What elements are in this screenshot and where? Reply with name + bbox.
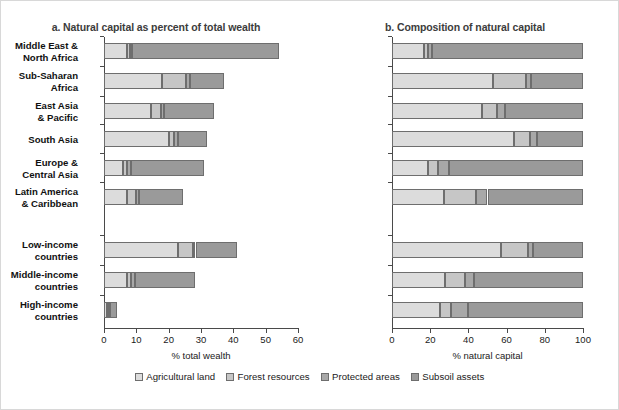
legend-swatch-agricultural-land	[135, 373, 143, 381]
legend-label: Forest resources	[238, 371, 310, 382]
legend-swatch-subsoil-assets	[411, 373, 419, 381]
chart-a-segment-subsoil-assets	[131, 160, 205, 176]
chart-a-segment-forest-resources	[169, 131, 174, 147]
chart-b-x-tick	[392, 329, 393, 333]
chart-b-category-label: Europe & Central Asia	[0, 157, 78, 180]
chart-a-title: a. Natural capital as percent of total w…	[1, 21, 311, 33]
chart-b-segment-forest-resources	[493, 73, 525, 89]
chart-b-segment-forest-resources	[501, 242, 528, 258]
legend-label: Subsoil assets	[422, 371, 484, 382]
chart-legend: Agricultural landForest resourcesProtect…	[1, 371, 618, 382]
chart-b-category-label: High-income countries	[0, 299, 78, 322]
chart-a-segment-protected-areas	[127, 160, 131, 176]
chart-a-segment-protected-areas	[174, 131, 179, 147]
chart-b-x-axis-title: % natural capital	[362, 350, 613, 361]
chart-a-x-axis-title: % total wealth	[74, 350, 328, 361]
legend-swatch-protected-areas	[321, 373, 329, 381]
chart-a-x-tick	[298, 329, 299, 333]
chart-b-segment-agricultural-land	[392, 160, 428, 176]
chart-a-segment-subsoil-assets	[132, 43, 278, 59]
chart-a-y-tick	[100, 96, 104, 97]
chart-a-x-tick	[169, 329, 170, 333]
legend-item-subsoil-assets: Subsoil assets	[411, 371, 484, 382]
chart-b-x-axis-line	[392, 328, 584, 329]
chart-a-x-tick	[201, 329, 202, 333]
chart-b-y-tick	[388, 153, 392, 154]
chart-a-segment-protected-areas	[186, 73, 190, 89]
chart-panel-b: b. Composition of natural capital 020406…	[310, 1, 619, 369]
chart-b-segment-agricultural-land	[392, 43, 424, 59]
chart-b-segment-subsoil-assets	[449, 160, 583, 176]
legend-swatch-forest-resources	[226, 373, 234, 381]
chart-b-segment-protected-areas	[526, 73, 532, 89]
chart-a-segment-forest-resources	[123, 160, 126, 176]
chart-a-segment-forest-resources	[162, 73, 186, 89]
chart-a-segment-protected-areas	[161, 103, 165, 119]
chart-b-y-tick	[388, 265, 392, 266]
chart-b-y-tick	[388, 96, 392, 97]
chart-a-segment-protected-areas	[131, 272, 134, 288]
chart-b-segment-subsoil-assets	[531, 73, 583, 89]
legend-item-forest-resources: Forest resources	[226, 371, 309, 382]
chart-b-segment-protected-areas	[476, 189, 487, 205]
chart-b-y-tick	[388, 66, 392, 67]
chart-a-x-tick	[136, 329, 137, 333]
chart-a-segment-protected-areas	[130, 43, 132, 59]
chart-a-y-tick	[100, 124, 104, 125]
chart-a-segment-forest-resources	[151, 103, 161, 119]
chart-a-segment-agricultural-land	[104, 73, 162, 89]
chart-a-segment-agricultural-land	[104, 272, 127, 288]
chart-b-x-tick-label: 0	[372, 334, 412, 345]
chart-b-segment-subsoil-assets	[468, 302, 583, 318]
chart-b-segment-agricultural-land	[392, 73, 493, 89]
chart-b-title: b. Composition of natural capital	[310, 21, 619, 33]
chart-b-y-tick	[388, 235, 392, 236]
chart-a-segment-agricultural-land	[104, 242, 178, 258]
chart-b-segment-agricultural-land	[392, 242, 501, 258]
chart-a-segment-agricultural-land	[104, 189, 127, 205]
chart-a-segment-forest-resources	[127, 189, 137, 205]
chart-b-segment-protected-areas	[530, 131, 538, 147]
chart-a-segment-subsoil-assets	[139, 189, 183, 205]
chart-b-y-tick	[388, 295, 392, 296]
chart-b-y-tick	[388, 36, 392, 37]
chart-a-y-tick	[100, 66, 104, 67]
chart-b-category-label: Middle East & North Africa	[0, 40, 78, 63]
chart-a-segment-agricultural-land	[104, 131, 169, 147]
chart-b-x-tick	[430, 329, 431, 333]
chart-b-category-label: Middle-income countries	[0, 269, 78, 292]
chart-b-x-tick	[583, 329, 584, 333]
chart-b-segment-protected-areas	[451, 302, 468, 318]
chart-b-category-label: East Asia & Pacific	[0, 100, 78, 123]
chart-b-category-label: South Asia	[0, 134, 78, 146]
chart-b-y-tick	[388, 182, 392, 183]
chart-b-segment-forest-resources	[445, 272, 464, 288]
chart-a-x-tick	[266, 329, 267, 333]
chart-b-segment-forest-resources	[440, 302, 451, 318]
chart-a-segment-subsoil-assets	[196, 242, 237, 258]
chart-b-segment-agricultural-land	[392, 302, 440, 318]
chart-b-x-tick-label: 40	[448, 334, 488, 345]
chart-b-segment-subsoil-assets	[537, 131, 583, 147]
chart-b-segment-agricultural-land	[392, 272, 445, 288]
chart-a-segment-subsoil-assets	[135, 272, 195, 288]
chart-a-y-tick	[100, 265, 104, 266]
chart-b-segment-forest-resources	[514, 131, 529, 147]
chart-b-x-tick	[507, 329, 508, 333]
chart-b-x-tick-label: 20	[410, 334, 450, 345]
chart-a-segment-forest-resources	[178, 242, 193, 258]
chart-a-segment-subsoil-assets	[110, 302, 116, 318]
chart-a-segment-agricultural-land	[104, 43, 127, 59]
legend-item-protected-areas: Protected areas	[321, 371, 400, 382]
chart-a-y-tick	[100, 36, 104, 37]
chart-b-category-label: Low-income countries	[0, 239, 78, 262]
chart-a-segment-protected-areas	[136, 189, 139, 205]
chart-a-segment-agricultural-land	[104, 302, 107, 318]
chart-b-segment-forest-resources	[482, 103, 497, 119]
chart-a-segment-forest-resources	[107, 302, 109, 318]
legend-label: Agricultural land	[146, 371, 215, 382]
chart-b-segment-forest-resources	[428, 160, 438, 176]
chart-a-segment-agricultural-land	[104, 103, 151, 119]
chart-b-segment-subsoil-assets	[505, 103, 583, 119]
chart-b-segment-protected-areas	[438, 160, 449, 176]
